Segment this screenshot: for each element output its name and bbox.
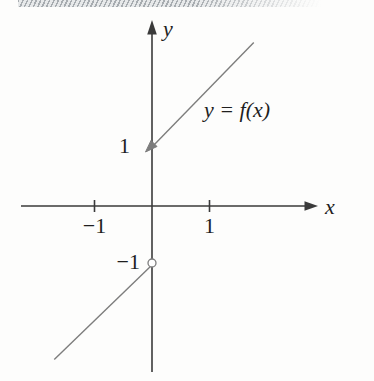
y-axis-arrowhead-icon: [147, 20, 157, 35]
y-tick-label-pos1: 1: [119, 133, 130, 158]
y-axis-label: y: [161, 16, 173, 41]
x-tick-label-neg1: −1: [83, 213, 106, 238]
curve-label: y = f(x): [202, 97, 270, 122]
x-axis-arrowhead-icon: [305, 201, 319, 211]
y-tick-label-neg1: −1: [117, 249, 140, 274]
curve-right-branch: [152, 43, 254, 147]
function-graph: −1 1 1 −1 y x y = f(x): [0, 0, 374, 381]
x-axis-label: x: [324, 194, 335, 219]
curve-left-branch: [54, 265, 152, 359]
x-tick-label-pos1: 1: [204, 213, 215, 238]
open-point-marker: [148, 259, 156, 267]
